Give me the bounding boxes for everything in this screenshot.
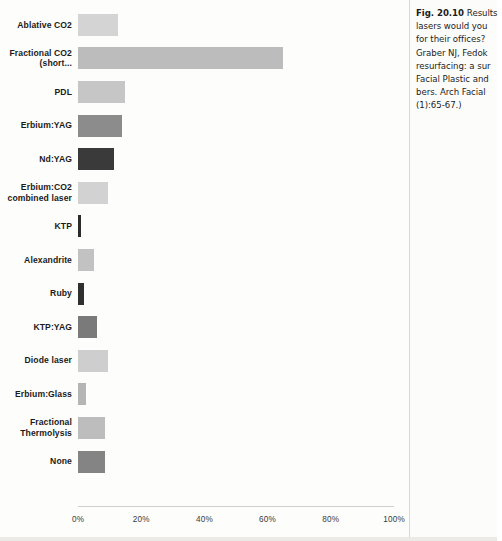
bar-category-label: Nd:YAG <box>0 154 78 165</box>
bar-track <box>78 142 410 176</box>
bar-row: Nd:YAG <box>0 142 410 176</box>
page-bottom-edge-shadow <box>0 537 497 541</box>
x-axis-tick-label: 100% <box>383 515 405 524</box>
bar-category-label: None <box>0 456 78 467</box>
bar <box>78 115 122 137</box>
bar-track <box>78 310 410 344</box>
figure-number: Fig. 20.10 <box>416 8 467 18</box>
bar-category-label: Erbium:YAG <box>0 120 78 131</box>
figure-caption: Fig. 20.10 Resultslasers would youfor th… <box>416 7 502 113</box>
bar-rows: Ablative CO2Fractional CO2(short...PDLEr… <box>0 8 410 506</box>
bar-track <box>78 445 410 479</box>
bar-category-label: KTP <box>0 221 78 232</box>
bar-row: Erbium:YAG <box>0 109 410 143</box>
bar <box>78 81 125 103</box>
bar <box>78 182 108 204</box>
bar-category-label: PDL <box>0 87 78 98</box>
bar-category-label: Fractional CO2(short... <box>0 48 78 69</box>
x-axis: 0%20%40%60%80%100% <box>0 506 410 536</box>
bar <box>78 417 105 439</box>
caption-line: Facial Plastic and <box>416 73 502 86</box>
bar <box>78 249 94 271</box>
bar-track <box>78 243 410 277</box>
bar-track <box>78 411 410 445</box>
x-axis-tick-label: 20% <box>133 515 150 524</box>
bar <box>78 148 114 170</box>
x-axis-tick-label: 80% <box>322 515 339 524</box>
x-axis-tick-label: 40% <box>196 515 213 524</box>
bar-track <box>78 109 410 143</box>
bar-category-label: Ruby <box>0 288 78 299</box>
figure-panel: Ablative CO2Fractional CO2(short...PDLEr… <box>0 0 410 541</box>
bar-track <box>78 344 410 378</box>
bar-row: Ruby <box>0 277 410 311</box>
caption-panel: Fig. 20.10 Resultslasers would youfor th… <box>411 0 497 541</box>
bar-row: None <box>0 445 410 479</box>
bar <box>78 383 86 405</box>
bar <box>78 215 81 237</box>
caption-line: bers. Arch Facial <box>416 86 502 99</box>
caption-line: Graber NJ, Fedok <box>416 47 502 60</box>
bar <box>78 283 84 305</box>
bar-track <box>78 210 410 244</box>
bar-row: KTP <box>0 210 410 244</box>
bar-track <box>78 277 410 311</box>
bar-category-label: Diode laser <box>0 355 78 366</box>
x-axis-tick-label: 0% <box>72 515 84 524</box>
x-axis-tick-label: 60% <box>259 515 276 524</box>
bar <box>78 451 105 473</box>
bar-track <box>78 8 410 42</box>
bar <box>78 350 108 372</box>
bar-category-label: KTP:YAG <box>0 322 78 333</box>
bar <box>78 316 97 338</box>
bar-category-label: Ablative CO2 <box>0 20 78 31</box>
bar-category-label: Erbium:CO2combined laser <box>0 182 78 203</box>
x-axis-line <box>78 506 394 507</box>
bar-track <box>78 378 410 412</box>
bar-row: Erbium:CO2combined laser <box>0 176 410 210</box>
caption-line: for their offices? <box>416 33 502 46</box>
bar <box>78 14 118 36</box>
bar-chart: Ablative CO2Fractional CO2(short...PDLEr… <box>0 8 410 520</box>
bar-track <box>78 176 410 210</box>
bar-row: Erbium:Glass <box>0 378 410 412</box>
bar-category-label: FractionalThermolysis <box>0 417 78 438</box>
bar-row: Alexandrite <box>0 243 410 277</box>
bar-track <box>78 42 410 76</box>
caption-line: lasers would you <box>416 20 502 33</box>
bar-category-label: Erbium:Glass <box>0 389 78 400</box>
bar-row: FractionalThermolysis <box>0 411 410 445</box>
bar-row: KTP:YAG <box>0 310 410 344</box>
caption-line: (1):65-67.) <box>416 99 502 112</box>
bar-row: Diode laser <box>0 344 410 378</box>
bar-row: Fractional CO2(short... <box>0 42 410 76</box>
bar-row: PDL <box>0 75 410 109</box>
caption-line: resurfacing: a sur <box>416 60 502 73</box>
bar-row: Ablative CO2 <box>0 8 410 42</box>
caption-line: Fig. 20.10 Results <box>416 7 502 20</box>
bar-category-label: Alexandrite <box>0 255 78 266</box>
bar-track <box>78 75 410 109</box>
bar <box>78 47 283 69</box>
